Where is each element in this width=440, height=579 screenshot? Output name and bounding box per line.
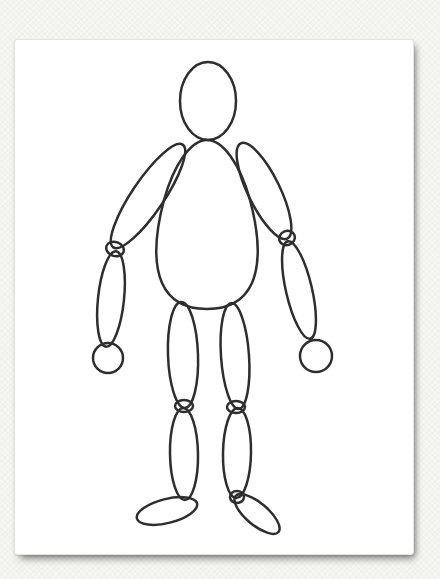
left-thigh [166,302,200,409]
left-foot [134,492,200,530]
right-thigh [217,302,252,410]
left-forearm [93,250,129,348]
left-calf [169,408,199,500]
torso [156,140,257,309]
right-forearm [275,238,323,341]
left-upper-arm [100,136,196,257]
head [180,62,236,140]
page-background [0,0,440,579]
right-calf [222,408,252,498]
right-upper-arm [226,136,301,245]
mannequin-figure [0,0,440,579]
right-foot [228,488,285,541]
right-hand [300,340,332,372]
